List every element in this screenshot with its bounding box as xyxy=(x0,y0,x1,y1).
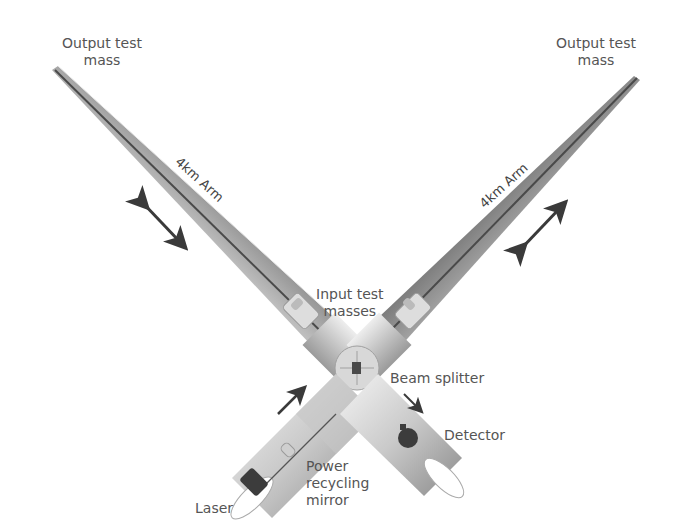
label-line: recycling xyxy=(306,475,369,492)
laser-label: Laser xyxy=(195,500,233,517)
output-test-mass-right-label: Output test mass xyxy=(556,35,636,69)
interferometer-diagram xyxy=(0,0,679,531)
label-line: Power xyxy=(306,458,369,475)
label-line: masses xyxy=(316,303,384,320)
beam-splitter-label: Beam splitter xyxy=(390,370,484,387)
label-line: Output test xyxy=(62,35,142,52)
label-line: mass xyxy=(62,52,142,69)
power-recycling-mirror-label: Power recycling mirror xyxy=(306,458,369,509)
beam-splitter-component xyxy=(352,362,361,374)
label-line: mass xyxy=(556,52,636,69)
laser-beam-direction-arrow xyxy=(278,392,300,414)
right-arm-displacement-arrow xyxy=(520,208,560,250)
label-line: mirror xyxy=(306,492,369,509)
output-test-mass-left-label: Output test mass xyxy=(62,35,142,69)
input-test-masses-label: Input test masses xyxy=(316,286,384,320)
label-line: Input test xyxy=(316,286,384,303)
left-arm-displacement-arrow xyxy=(142,202,180,242)
label-line: Output test xyxy=(556,35,636,52)
detector-label: Detector xyxy=(444,427,505,444)
